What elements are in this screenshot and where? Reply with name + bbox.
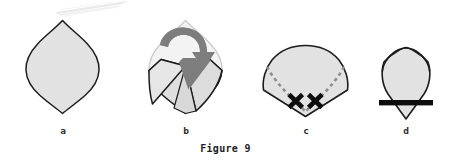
figure-illustration-svg xyxy=(0,0,451,164)
panel-b-shape xyxy=(149,21,222,114)
panel-a-shape xyxy=(26,21,99,114)
panel-label-b: b xyxy=(176,126,196,136)
figure-9-diagram: a b c d Figure 9 xyxy=(0,0,451,164)
panel-d-shield-outline xyxy=(382,48,430,120)
panel-label-d: d xyxy=(396,126,416,136)
figure-caption: Figure 9 xyxy=(0,144,451,154)
panel-d-binding-bar xyxy=(379,100,433,105)
panel-label-c: c xyxy=(296,126,316,136)
panel-d-shape xyxy=(379,48,433,120)
scan-artifact xyxy=(56,1,128,17)
panel-label-a: a xyxy=(53,126,73,136)
panel-c-shape xyxy=(263,46,348,117)
panel-a-leaf-outline xyxy=(26,21,99,114)
